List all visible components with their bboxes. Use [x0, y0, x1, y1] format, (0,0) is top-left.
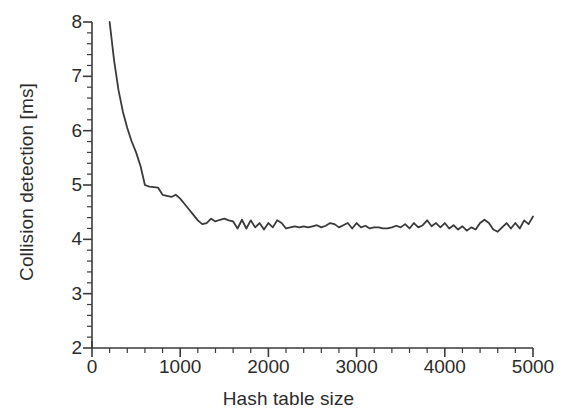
- x-axis-title: Hash table size: [0, 388, 577, 410]
- y-tick-label-wrap: 6: [46, 120, 82, 142]
- y-tick-label-wrap: 5: [46, 174, 82, 196]
- x-tick-label: 1000: [159, 356, 201, 378]
- x-tick-label: 0: [87, 356, 98, 378]
- y-tick-label-wrap: 2: [46, 337, 82, 359]
- data-series-group: [110, 22, 533, 232]
- y-tick-label-wrap: 8: [46, 11, 82, 33]
- y-axis-title: Collision detection [ms]: [16, 12, 42, 352]
- y-tick-label-wrap: 7: [46, 65, 82, 87]
- y-tick-label-wrap: 4: [46, 228, 82, 250]
- x-tick-label: 3000: [335, 356, 377, 378]
- y-tick-label: 3: [46, 283, 82, 305]
- y-tick-label: 5: [46, 174, 82, 196]
- chart-figure: 010002000300040005000 2345678 Hash table…: [0, 0, 577, 420]
- x-tick-label: 4000: [424, 356, 466, 378]
- x-tick-label: 5000: [512, 356, 554, 378]
- y-tick-label: 2: [46, 337, 82, 359]
- axis-spines: [92, 22, 533, 348]
- x-axis-ticks: [92, 341, 533, 357]
- y-tick-label: 4: [46, 228, 82, 250]
- y-tick-label: 7: [46, 65, 82, 87]
- y-tick-label: 8: [46, 11, 82, 33]
- y-axis-ticks: [83, 22, 92, 348]
- y-tick-label: 6: [46, 120, 82, 142]
- x-tick-label: 2000: [247, 356, 289, 378]
- y-tick-label-wrap: 3: [46, 283, 82, 305]
